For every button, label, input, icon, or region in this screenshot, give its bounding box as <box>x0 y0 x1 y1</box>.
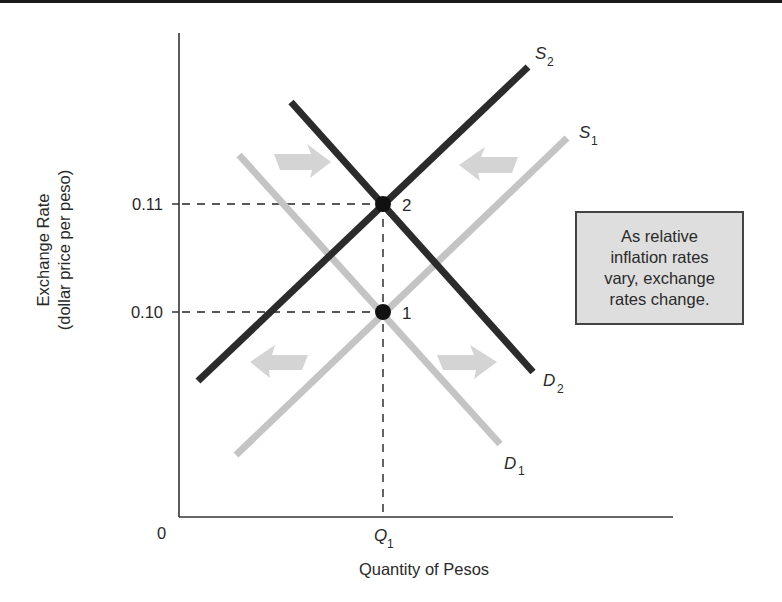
curve-d2 <box>291 102 533 372</box>
annotation-box: As relative inflation rates vary, exchan… <box>575 211 744 325</box>
point-label-2: 2 <box>402 196 411 215</box>
y-tick-label-010: 0.10 <box>131 303 163 321</box>
arrow-left-icon <box>250 345 308 378</box>
annotation-line2: inflation rates <box>604 247 715 268</box>
shift-arrows <box>250 144 518 379</box>
annotation-line4: rates change. <box>604 289 715 310</box>
label-s2-sub: 2 <box>547 55 554 69</box>
label-s2: S <box>535 44 547 63</box>
label-s1: S <box>579 123 591 142</box>
y-axis-title-line1: Exchange Rate <box>33 170 54 331</box>
annotation-line3: vary, exchange <box>604 268 715 289</box>
curve-d1 <box>239 155 500 444</box>
label-d1: D <box>504 454 516 473</box>
point-label-1: 1 <box>402 304 411 323</box>
origin-label: 0 <box>157 524 166 542</box>
y-tick-label-011: 0.11 <box>132 195 163 213</box>
arrow-right-icon <box>274 144 331 178</box>
label-d2: D <box>543 371 555 390</box>
label-d1-sub: 1 <box>518 464 525 478</box>
x-axis-title: Quantity of Pesos <box>359 560 489 578</box>
equilibrium-point-2 <box>375 196 391 212</box>
label-s1-sub: 1 <box>591 134 598 148</box>
annotation-line1: As relative <box>604 226 715 247</box>
q1-subscript: 1 <box>387 537 394 551</box>
q1-label: Q <box>374 526 387 545</box>
equilibrium-point-1 <box>375 304 391 320</box>
label-d2-sub: 2 <box>557 382 564 396</box>
y-axis-title-line2: (dollar price per peso) <box>54 170 75 331</box>
arrow-left-icon <box>459 147 518 181</box>
arrow-right-icon <box>437 345 497 379</box>
